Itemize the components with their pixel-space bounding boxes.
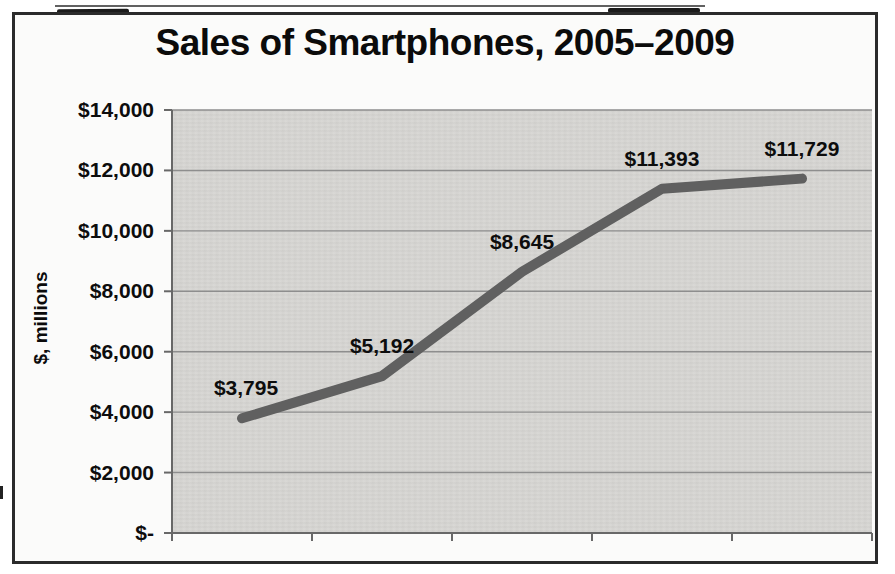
data-label: $11,393 [625,147,700,171]
data-label: $5,192 [350,334,414,358]
y-tick-label: $4,000 [38,400,154,424]
scanned-chart-page: Sales of Smartphones, 2005–2009 $, milli… [0,0,895,574]
y-tick-label: $8,000 [38,279,154,303]
y-tick-label: $6,000 [38,340,154,364]
y-tick-label: $- [38,521,154,545]
data-label: $3,795 [214,376,278,400]
data-label: $11,729 [765,137,840,161]
data-label: $8,645 [490,230,554,254]
y-tick-label: $12,000 [38,158,154,182]
y-tick-label: $2,000 [38,461,154,485]
y-tick-label: $14,000 [38,98,154,122]
y-tick-label: $10,000 [38,219,154,243]
series-line [242,179,802,419]
